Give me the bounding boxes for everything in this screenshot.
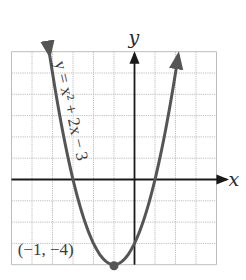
x-axis-label: x <box>229 168 240 190</box>
parabola-chart: x y y = x² + 2x − 3 (−1, −4) <box>0 0 246 280</box>
vertex-annotation: (−1, −4) <box>18 240 74 259</box>
vertex-point <box>110 261 119 270</box>
equation-label: y = x² + 2x − 3 <box>51 59 92 163</box>
axes <box>12 54 227 265</box>
grid <box>12 52 217 265</box>
y-axis-label: y <box>128 26 140 48</box>
